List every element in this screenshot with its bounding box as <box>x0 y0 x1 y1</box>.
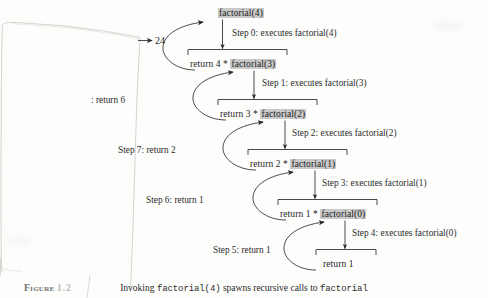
figure-label-number: 1.2 <box>57 283 72 293</box>
bracket-level4 <box>316 250 376 256</box>
step-label-4: Step 4: executes factorial(0) <box>352 228 457 239</box>
caption-code-2: factorial <box>320 284 368 294</box>
caption-pre: Invoking <box>120 283 157 293</box>
bracket-level2 <box>248 150 347 156</box>
node-body-factorial1: return 1 * factorial(0) <box>280 209 366 220</box>
node-body-factorial3: return 3 * factorial(2) <box>220 109 306 120</box>
result-value: 24 <box>155 35 165 46</box>
step-label-2: Step 2: executes factorial(2) <box>292 128 397 139</box>
step-label-1: Step 1: executes factorial(3) <box>262 78 367 89</box>
bracket-level3 <box>278 200 377 206</box>
figure-caption: Figure 1.2 Invoking factorial(4) spawns … <box>24 283 368 294</box>
return-label-6: Step 6: return 1 <box>146 195 204 206</box>
figure-canvas: 24 factorial(4) Step 0: executes factori… <box>0 0 488 298</box>
node-prefix: return 1 <box>323 259 354 269</box>
node-call-factorial4: factorial(4) <box>218 8 264 19</box>
node-code: factorial(2) <box>260 109 306 119</box>
return-label-5: Step 5: return 1 <box>213 245 271 256</box>
node-body-factorial2: return 2 * factorial(1) <box>250 159 336 170</box>
return-label-7: Step 7: return 2 <box>118 145 176 156</box>
node-prefix: return 4 * <box>190 59 230 69</box>
node-body-factorial4: return 4 * factorial(3) <box>190 59 276 70</box>
bracket-level0 <box>188 50 287 56</box>
arrow-curve-4 <box>284 222 324 270</box>
return-label-8: : return 6 <box>91 95 125 106</box>
node-body-factorial0: return 1 <box>323 259 354 270</box>
caption-mid: spawns recursive calls to <box>221 283 320 293</box>
node-code: factorial(4) <box>218 8 264 18</box>
page-edge <box>0 22 140 292</box>
step-label-3: Step 3: executes factorial(1) <box>322 178 427 189</box>
step-label-0: Step 0: executes factorial(4) <box>232 28 337 39</box>
bracket-level1 <box>218 100 317 106</box>
node-code: factorial(3) <box>230 59 276 69</box>
node-prefix: return 2 * <box>250 159 290 169</box>
figure-label-word: Figure <box>24 283 55 293</box>
node-prefix: return 3 * <box>220 109 260 119</box>
node-prefix: return 1 * <box>280 209 320 219</box>
node-code: factorial(0) <box>320 209 366 219</box>
figure-caption-text: Invoking factorial(4) spawns recursive c… <box>120 283 368 293</box>
caption-code-1: factorial(4) <box>157 284 221 294</box>
node-code: factorial(1) <box>290 159 336 169</box>
